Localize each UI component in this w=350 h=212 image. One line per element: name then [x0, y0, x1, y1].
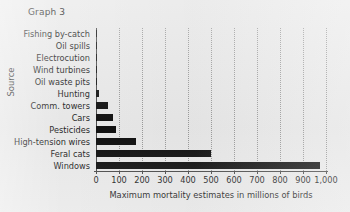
x-tick-label: 500 [203, 175, 219, 186]
y-tick-label: Windows [53, 160, 90, 172]
x-tick-label: 800 [272, 175, 288, 186]
bar-row [96, 112, 326, 124]
x-tick-label: 700 [249, 175, 265, 186]
bar-row [96, 40, 326, 52]
bar-chart-figure: Graph 3 Source Fishing by-catchOil spill… [0, 0, 350, 212]
x-tick-label: 300 [157, 175, 173, 186]
x-axis-tick-labels: 01002003004005006007008009001,000 [96, 175, 326, 187]
bar [96, 114, 113, 121]
y-tick-label: Oil waste pits [35, 76, 90, 88]
y-tick-label: High-tension wires [14, 136, 90, 148]
bar-row [96, 148, 326, 160]
x-tick-label: 900 [295, 175, 311, 186]
bar-row [96, 100, 326, 112]
plot-area [96, 28, 326, 171]
y-tick-label: Hunting [58, 88, 90, 100]
x-tick [326, 171, 327, 174]
y-tick-label: Wind turbines [33, 64, 90, 76]
bar-row [96, 52, 326, 64]
bar-row [96, 136, 326, 148]
bar [96, 102, 108, 109]
y-tick-label: Pesticides [49, 124, 90, 136]
bar [96, 66, 97, 73]
y-tick-label: Oil spills [56, 40, 90, 52]
bar-row [96, 28, 326, 40]
gridline-1000 [326, 28, 327, 171]
y-tick-label: Fishing by-catch [24, 28, 90, 40]
x-tick-label: 400 [180, 175, 196, 186]
x-tick-label: 600 [226, 175, 242, 186]
y-axis-tick-labels: Fishing by-catchOil spillsElectrocutionW… [10, 28, 94, 171]
y-tick-label: Comm. towers [31, 100, 90, 112]
bar-row [96, 160, 326, 172]
y-tick-label: Electrocution [36, 52, 90, 64]
bar-row [96, 76, 326, 88]
bar [96, 42, 97, 49]
bar [96, 126, 116, 133]
bar [96, 162, 320, 169]
bar [96, 78, 97, 85]
bar-row [96, 88, 326, 100]
x-axis-title: Maximum mortality estimates in millions … [96, 190, 326, 200]
x-tick-label: 200 [134, 175, 150, 186]
bars-layer [96, 28, 326, 171]
chart-title: Graph 3 [28, 7, 65, 17]
x-tick-label: 100 [111, 175, 127, 186]
x-tick-label: 1,000 [314, 175, 337, 186]
bar [96, 30, 97, 37]
bar [96, 138, 136, 145]
bar [96, 54, 97, 61]
x-tick-label: 0 [93, 175, 98, 186]
bar [96, 90, 99, 97]
bar-row [96, 64, 326, 76]
y-tick-label: Feral cats [50, 148, 90, 160]
bar [96, 150, 211, 157]
y-tick-label: Cars [72, 112, 90, 124]
bar-row [96, 124, 326, 136]
